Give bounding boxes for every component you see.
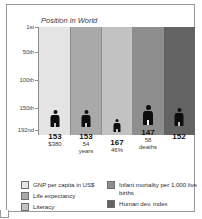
- value-rank: 153: [48, 132, 61, 141]
- value-detail: 46%: [110, 147, 123, 154]
- person-head-icon: [177, 108, 181, 112]
- value-rank: 167: [110, 138, 123, 147]
- y-tick-label-100th: 100th: [19, 77, 34, 83]
- person-head-icon: [53, 110, 57, 114]
- person-head-icon: [146, 105, 151, 110]
- pictogram-gnp-per-capita: [51, 110, 60, 127]
- legend-item-infant-mortality[interactable]: Infant mortality per 1,000 live births: [107, 181, 199, 196]
- legend-swatch-icon: [21, 203, 29, 211]
- person-head-icon: [84, 110, 88, 114]
- legend-item-life-expectancy[interactable]: Life expectancy: [21, 192, 109, 200]
- value-detail-line1: 58: [139, 137, 157, 144]
- chart-frame: Position in World 1st 50th 100th 150th 1…: [6, 4, 195, 212]
- value-detail-line2: deaths: [139, 144, 157, 151]
- legend-label: Life expectancy: [33, 192, 75, 200]
- legend-column-right: Infant mortality per 1,000 live births H…: [107, 181, 199, 211]
- value-detail-line1: 54: [79, 141, 94, 148]
- legend-label: GNP per capita in US$: [33, 181, 94, 189]
- legend-item-human-dev-index[interactable]: Human dev. index: [107, 200, 199, 208]
- pictogram-literacy: [114, 119, 121, 132]
- legend-item-gnp-per-capita[interactable]: GNP per capita in US$: [21, 181, 109, 189]
- legend-swatch-icon: [107, 200, 115, 208]
- pictogram-human-dev-index: [175, 108, 184, 126]
- value-label-literacy: 167 46%: [110, 138, 123, 154]
- value-label-life-expectancy: 153 54 years: [79, 132, 94, 155]
- y-tick-label-192nd: 192nd: [18, 127, 34, 133]
- legend-item-literacy[interactable]: Literacy: [21, 203, 109, 211]
- person-body-icon: [175, 113, 184, 126]
- value-detail: $380: [48, 141, 61, 148]
- legend-swatch-icon: [107, 181, 115, 189]
- frame-corner-notch: [0, 210, 9, 218]
- value-label-gnp-per-capita: 153 $380: [48, 132, 61, 148]
- person-body-icon: [143, 111, 153, 125]
- pictogram-infant-mortality: [143, 105, 153, 125]
- value-rank: 152: [172, 132, 185, 141]
- legend-label: Literacy: [33, 203, 54, 211]
- legend-column-left: GNP per capita in US$ Life expectancy Li…: [21, 181, 109, 214]
- person-head-icon: [116, 119, 119, 122]
- legend-label: Infant mortality per 1,000 live births: [119, 181, 199, 196]
- value-label-human-dev-index: 152: [172, 132, 185, 141]
- value-detail-line2: years: [79, 148, 94, 155]
- chart-title: Position in World: [41, 16, 97, 25]
- legend-swatch-icon: [21, 192, 29, 200]
- y-tick-label-50th: 50th: [23, 49, 34, 55]
- value-rank: 147: [139, 128, 157, 137]
- value-rank: 153: [79, 132, 94, 141]
- pictogram-life-expectancy: [82, 110, 91, 127]
- person-body-icon: [82, 115, 91, 127]
- person-body-icon: [51, 115, 60, 127]
- y-tick-label-1st: 1st: [26, 24, 34, 30]
- legend-label: Human dev. index: [119, 200, 168, 208]
- y-tick-label-150th: 150th: [19, 105, 34, 111]
- value-label-infant-mortality: 147 58 deaths: [139, 128, 157, 151]
- person-body-icon: [114, 123, 121, 132]
- legend-swatch-icon: [21, 181, 29, 189]
